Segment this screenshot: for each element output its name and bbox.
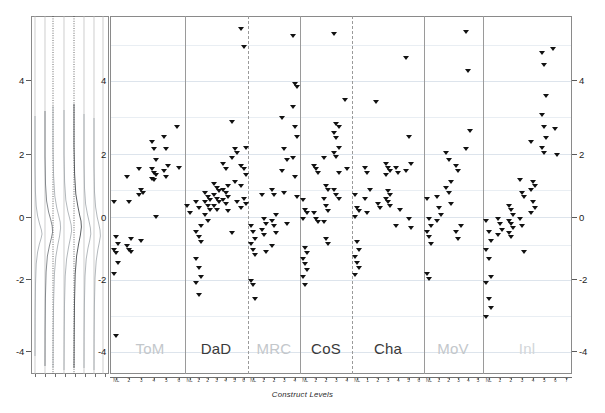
x-tick-label: 4 <box>224 379 227 384</box>
x-tick-label: 1 <box>437 379 440 384</box>
x-tick-label: 2 <box>127 379 130 384</box>
x-tick-label: 3 <box>140 379 143 384</box>
x-tick-label: 3 <box>335 379 338 384</box>
x-tick-label: 4 <box>397 379 400 384</box>
x-tick-label: 5 <box>543 379 546 384</box>
density-tick <box>45 374 46 377</box>
figure-root: 4 2 0 -2 -4 4 2 0 -2 -4 ToM DaD MRC CoS … <box>0 0 605 413</box>
x-tick-label: 5 <box>407 379 410 384</box>
x-tick-label: 4 <box>294 379 297 384</box>
density-tick <box>35 374 36 377</box>
x-tick-label: 3 <box>215 379 218 384</box>
x-tick-label: 4 <box>532 379 535 384</box>
x-tick-label: 3 <box>283 379 286 384</box>
x-tick-label: 4 <box>152 379 155 384</box>
x-axis-title: Construct Levels <box>0 390 605 399</box>
density-tick <box>85 374 86 377</box>
x-tick-label: NL <box>187 379 193 384</box>
x-tick-label: 4 <box>346 379 349 384</box>
x-tick-label: 1 <box>197 379 200 384</box>
x-tick-label: 2 <box>447 379 450 384</box>
x-tick-label: NL <box>113 379 119 384</box>
density-tick <box>75 374 76 377</box>
x-tick-label: 2 <box>273 379 276 384</box>
x-tick-label: 6 <box>554 379 557 384</box>
x-tick-label: NL <box>426 379 432 384</box>
x-tick-label: 4 <box>467 379 470 384</box>
density-tick <box>105 374 106 377</box>
x-tick-label: 2 <box>206 379 209 384</box>
x-tick-label: 6 <box>418 379 421 384</box>
x-tick-label: 3 <box>457 379 460 384</box>
density-tick <box>95 374 96 377</box>
x-tick-label: 3 <box>521 379 524 384</box>
x-tick-label: 1 <box>498 379 501 384</box>
x-tick-label: 2 <box>376 379 379 384</box>
x-tick-label: 6 <box>242 379 245 384</box>
x-tick-label: 2 <box>510 379 513 384</box>
x-tick-label: NL <box>250 379 256 384</box>
x-tick-label: 5 <box>233 379 236 384</box>
x-tick-layer: NL23456NL123456NL1234NL1234NL123456NL123… <box>0 0 605 413</box>
x-tick-label: 5 <box>165 379 168 384</box>
x-tick-label: 5 <box>477 379 480 384</box>
density-tick <box>65 374 66 377</box>
x-tick-label: 1 <box>366 379 369 384</box>
x-tick-label: NL <box>302 379 308 384</box>
x-tick-label: 1 <box>262 379 265 384</box>
x-tick-label: 3 <box>387 379 390 384</box>
x-tick-label: 2 <box>325 379 328 384</box>
x-tick-label: NL <box>354 379 360 384</box>
x-tick-label: 1 <box>314 379 317 384</box>
x-tick-label: 6 <box>177 379 180 384</box>
x-tick-label: NL <box>486 379 492 384</box>
density-tick <box>55 374 56 377</box>
x-tick-label: 7 <box>565 379 568 384</box>
